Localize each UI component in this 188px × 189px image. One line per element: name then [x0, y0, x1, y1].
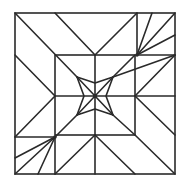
tr-fan-vertex: [135, 53, 139, 57]
center-point: [93, 94, 97, 98]
bl-fan-ray-2: [38, 137, 55, 174]
right-diag-a: [135, 55, 175, 96]
bottom-diag-b: [95, 135, 135, 174]
bl-fan-vertex: [53, 135, 57, 139]
right-diag-b: [135, 96, 175, 135]
br-star-diag: [113, 115, 135, 135]
br-diag: [135, 135, 175, 174]
tr-fan-ray-1: [137, 13, 175, 55]
quilt-block-figure: [0, 0, 188, 189]
top-diag-b: [95, 13, 137, 55]
left-diag-a: [15, 55, 55, 96]
tr-diag: [113, 55, 175, 77]
geometric-line-drawing: [0, 0, 188, 189]
bottom-diag-a: [55, 135, 95, 174]
top-diag-a: [55, 13, 95, 55]
left-diag-b: [15, 96, 55, 137]
tl-diag-outer: [15, 13, 77, 77]
bl-star-diag: [55, 115, 77, 137]
